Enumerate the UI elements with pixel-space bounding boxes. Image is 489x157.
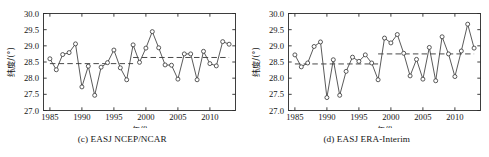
chart-panel-d: 27.027.528.028.529.029.530.0198519901995… (245, 0, 489, 157)
y-tick-label-c: 27.0 (24, 106, 39, 116)
data-point-d (312, 44, 316, 48)
data-point-d (388, 41, 392, 45)
data-point-c (227, 42, 231, 46)
y-tick-label-d: 28.5 (268, 57, 283, 67)
y-tick-label-d: 29.5 (268, 25, 283, 35)
data-point-c (202, 49, 206, 53)
data-point-d (408, 74, 412, 78)
data-point-c (208, 62, 212, 66)
y-tick-label-d: 29.0 (268, 41, 283, 51)
x-tick-label-d: 1990 (318, 112, 335, 122)
data-point-d (382, 36, 386, 40)
data-point-d (292, 53, 296, 57)
data-point-c (131, 43, 135, 47)
data-point-d (459, 49, 463, 53)
data-point-c (61, 53, 65, 57)
data-point-d (440, 35, 444, 39)
data-point-d (446, 52, 450, 56)
data-point-d (472, 46, 476, 50)
x-tick-label-c: 1985 (41, 112, 58, 122)
data-point-c (80, 85, 84, 89)
data-point-d (376, 78, 380, 82)
data-point-d (305, 61, 309, 65)
panel-caption-d: (d) EASJ ERA-Interim (245, 134, 489, 145)
y-tick-label-c: 28.5 (24, 57, 39, 67)
data-point-c (170, 63, 174, 67)
y-tick-label-c: 29.0 (24, 41, 39, 51)
data-point-c (93, 93, 97, 97)
data-point-d (299, 65, 303, 69)
chart-area-d: 27.027.528.028.529.029.530.0198519901995… (245, 0, 489, 128)
y-tick-label-c: 30.0 (24, 9, 39, 19)
x-tick-label-d: 2005 (414, 112, 431, 122)
x-tick-label-d: 1985 (286, 112, 303, 122)
data-series-line-d (294, 24, 473, 97)
data-point-c (157, 46, 161, 50)
data-point-c (125, 78, 129, 82)
data-point-c (54, 68, 58, 72)
data-point-d (427, 45, 431, 49)
data-point-c (221, 40, 225, 44)
chart-area-c: 27.027.528.028.529.029.530.0198519901995… (0, 0, 245, 128)
data-point-d (324, 96, 328, 100)
data-point-d (465, 22, 469, 26)
data-point-c (195, 78, 199, 82)
data-point-c (176, 77, 180, 81)
data-point-c (138, 60, 142, 64)
data-point-d (350, 55, 354, 59)
y-tick-label-d: 27.5 (268, 89, 283, 99)
data-point-d (452, 75, 456, 79)
data-point-d (363, 53, 367, 57)
data-point-d (420, 77, 424, 81)
data-point-c (163, 63, 167, 67)
data-point-c (67, 51, 71, 55)
data-point-c (182, 52, 186, 56)
data-point-d (337, 93, 341, 97)
y-tick-label-d: 27.0 (268, 106, 283, 116)
x-tick-label-c: 1995 (105, 112, 122, 122)
x-tick-label-d: 2000 (382, 112, 399, 122)
y-tick-label-d: 30.0 (268, 9, 283, 19)
y-axis-title-d: 纬度/(°) (250, 47, 260, 76)
y-tick-label-c: 27.5 (24, 89, 39, 99)
x-axis-title-d: 年份 (376, 125, 392, 128)
y-axis-title-c: 纬度/(°) (6, 47, 16, 76)
x-tick-label-c: 2000 (137, 112, 154, 122)
x-axis-title-c: 年份 (132, 125, 148, 128)
data-point-c (86, 64, 90, 68)
data-point-c (74, 42, 78, 46)
data-point-c (48, 57, 52, 61)
x-tick-label-d: 1995 (350, 112, 367, 122)
y-tick-label-d: 28.0 (268, 73, 283, 83)
x-tick-label-c: 2010 (201, 112, 218, 122)
data-point-d (356, 59, 360, 63)
chart-panel-c: 27.027.528.028.529.029.530.0198519901995… (0, 0, 245, 157)
x-tick-label-d: 2010 (446, 112, 463, 122)
data-point-d (344, 69, 348, 73)
y-tick-label-c: 28.0 (24, 73, 39, 83)
x-tick-label-c: 2005 (169, 112, 186, 122)
y-tick-label-c: 29.5 (24, 25, 39, 35)
plot-frame-d (288, 14, 480, 111)
data-point-d (318, 40, 322, 44)
line-chart-c: 27.027.528.028.529.029.530.0198519901995… (0, 0, 245, 128)
panel-caption-c: (c) EASJ NCEP/NCAR (0, 134, 245, 145)
data-point-d (401, 51, 405, 55)
figure-root: 27.027.528.028.529.029.530.0198519901995… (0, 0, 489, 157)
data-point-c (189, 52, 193, 56)
data-point-c (144, 46, 148, 50)
data-point-d (331, 58, 335, 62)
data-point-d (369, 61, 373, 65)
data-point-d (433, 79, 437, 83)
data-point-c (106, 61, 110, 65)
data-point-d (414, 57, 418, 61)
data-point-c (118, 66, 122, 70)
x-tick-label-c: 1990 (73, 112, 90, 122)
data-point-c (150, 30, 154, 34)
data-point-d (395, 33, 399, 37)
line-chart-d: 27.027.528.028.529.029.530.0198519901995… (245, 0, 489, 128)
data-point-c (99, 65, 103, 69)
data-point-c (214, 64, 218, 68)
data-point-c (112, 48, 116, 52)
